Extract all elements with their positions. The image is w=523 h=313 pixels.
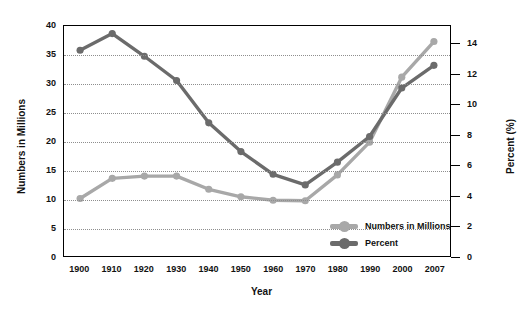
y-axis-right-tick-mark [451, 135, 460, 136]
data-point [77, 47, 84, 54]
legend-item[interactable]: Numbers in Millions [330, 219, 451, 233]
y-axis-right-tick-label: 10 [467, 99, 477, 109]
data-point [141, 173, 148, 180]
y-axis-right-tick-mark [451, 43, 460, 44]
x-axis-tick-label: 1960 [263, 264, 283, 274]
data-point [366, 133, 373, 140]
y-axis-right-title: Percent (%) [505, 67, 516, 227]
data-point [302, 181, 309, 188]
y-axis-left-tick-label: 15 [46, 165, 56, 175]
data-point [334, 159, 341, 166]
y-axis-left-tick-label: 25 [46, 107, 56, 117]
y-axis-right-tick-mark [451, 196, 460, 197]
gridline [64, 142, 450, 143]
y-axis-right-ticks: 14121086420 [467, 25, 509, 257]
y-axis-right-tick-mark [451, 257, 460, 258]
data-point [398, 84, 405, 91]
data-point [398, 74, 405, 81]
data-point [334, 171, 341, 178]
data-point [237, 148, 244, 155]
x-axis-tick-label: 1930 [166, 264, 186, 274]
x-axis-tick-label: 1950 [231, 264, 251, 274]
gridline [64, 55, 450, 56]
chart-container: Numbers in Millions 4035302520151050 141… [0, 0, 523, 313]
y-axis-right-tick-mark [451, 226, 460, 227]
x-axis-title: Year [0, 286, 523, 297]
y-axis-left-tick-label: 20 [46, 136, 56, 146]
gridline [64, 200, 450, 201]
y-axis-right-tick-label: 12 [467, 69, 477, 79]
chart-legend: Numbers in MillionsPercent [330, 219, 451, 253]
x-axis-tick-label: 1970 [295, 264, 315, 274]
x-axis-tick-label: 1900 [69, 264, 89, 274]
y-axis-right-tick-mark [451, 104, 460, 105]
data-point [430, 62, 437, 69]
data-point [205, 119, 212, 126]
x-axis-ticks: 1900191019201930194019501960197019801990… [0, 264, 523, 278]
y-axis-left-tick-label: 35 [46, 49, 56, 59]
x-axis-tick-label: 2007 [425, 264, 445, 274]
x-axis-tick-label: 1940 [198, 264, 218, 274]
legend-item[interactable]: Percent [330, 236, 451, 250]
x-axis-tick-label: 2000 [392, 264, 412, 274]
y-axis-left-tick-label: 0 [51, 252, 56, 262]
y-axis-right-tick-label: 2 [467, 221, 472, 231]
gridline [64, 113, 450, 114]
y-axis-right-tick-mark [451, 165, 460, 166]
legend-swatch [330, 224, 358, 229]
y-axis-right-tick-label: 4 [467, 191, 472, 201]
data-point [173, 173, 180, 180]
y-axis-right-tick-label: 14 [467, 38, 477, 48]
x-axis-tick-label: 1920 [134, 264, 154, 274]
legend-label: Percent [365, 238, 398, 248]
x-axis-tick-label: 1910 [101, 264, 121, 274]
y-axis-left-tick-label: 40 [46, 20, 56, 30]
data-point [141, 53, 148, 60]
data-point [205, 186, 212, 193]
gridline [64, 171, 450, 172]
y-axis-left-ticks: 4035302520151050 [18, 25, 56, 257]
series-line [80, 34, 434, 185]
data-point [109, 30, 116, 37]
legend-swatch [330, 241, 358, 246]
x-axis-tick-label: 1980 [328, 264, 348, 274]
data-point [430, 38, 437, 45]
data-point [109, 175, 116, 182]
y-axis-right-tick-mark [451, 74, 460, 75]
gridline [64, 84, 450, 85]
data-point [173, 77, 180, 84]
legend-label: Numbers in Millions [365, 221, 451, 231]
y-axis-left-tick-label: 30 [46, 78, 56, 88]
y-axis-right-tick-label: 0 [467, 252, 472, 262]
x-axis-tick-label: 1990 [360, 264, 380, 274]
y-axis-left-tick-label: 5 [51, 223, 56, 233]
y-axis-right-tick-label: 6 [467, 160, 472, 170]
y-axis-left-tick-label: 10 [46, 194, 56, 204]
y-axis-right-tick-label: 8 [467, 130, 472, 140]
